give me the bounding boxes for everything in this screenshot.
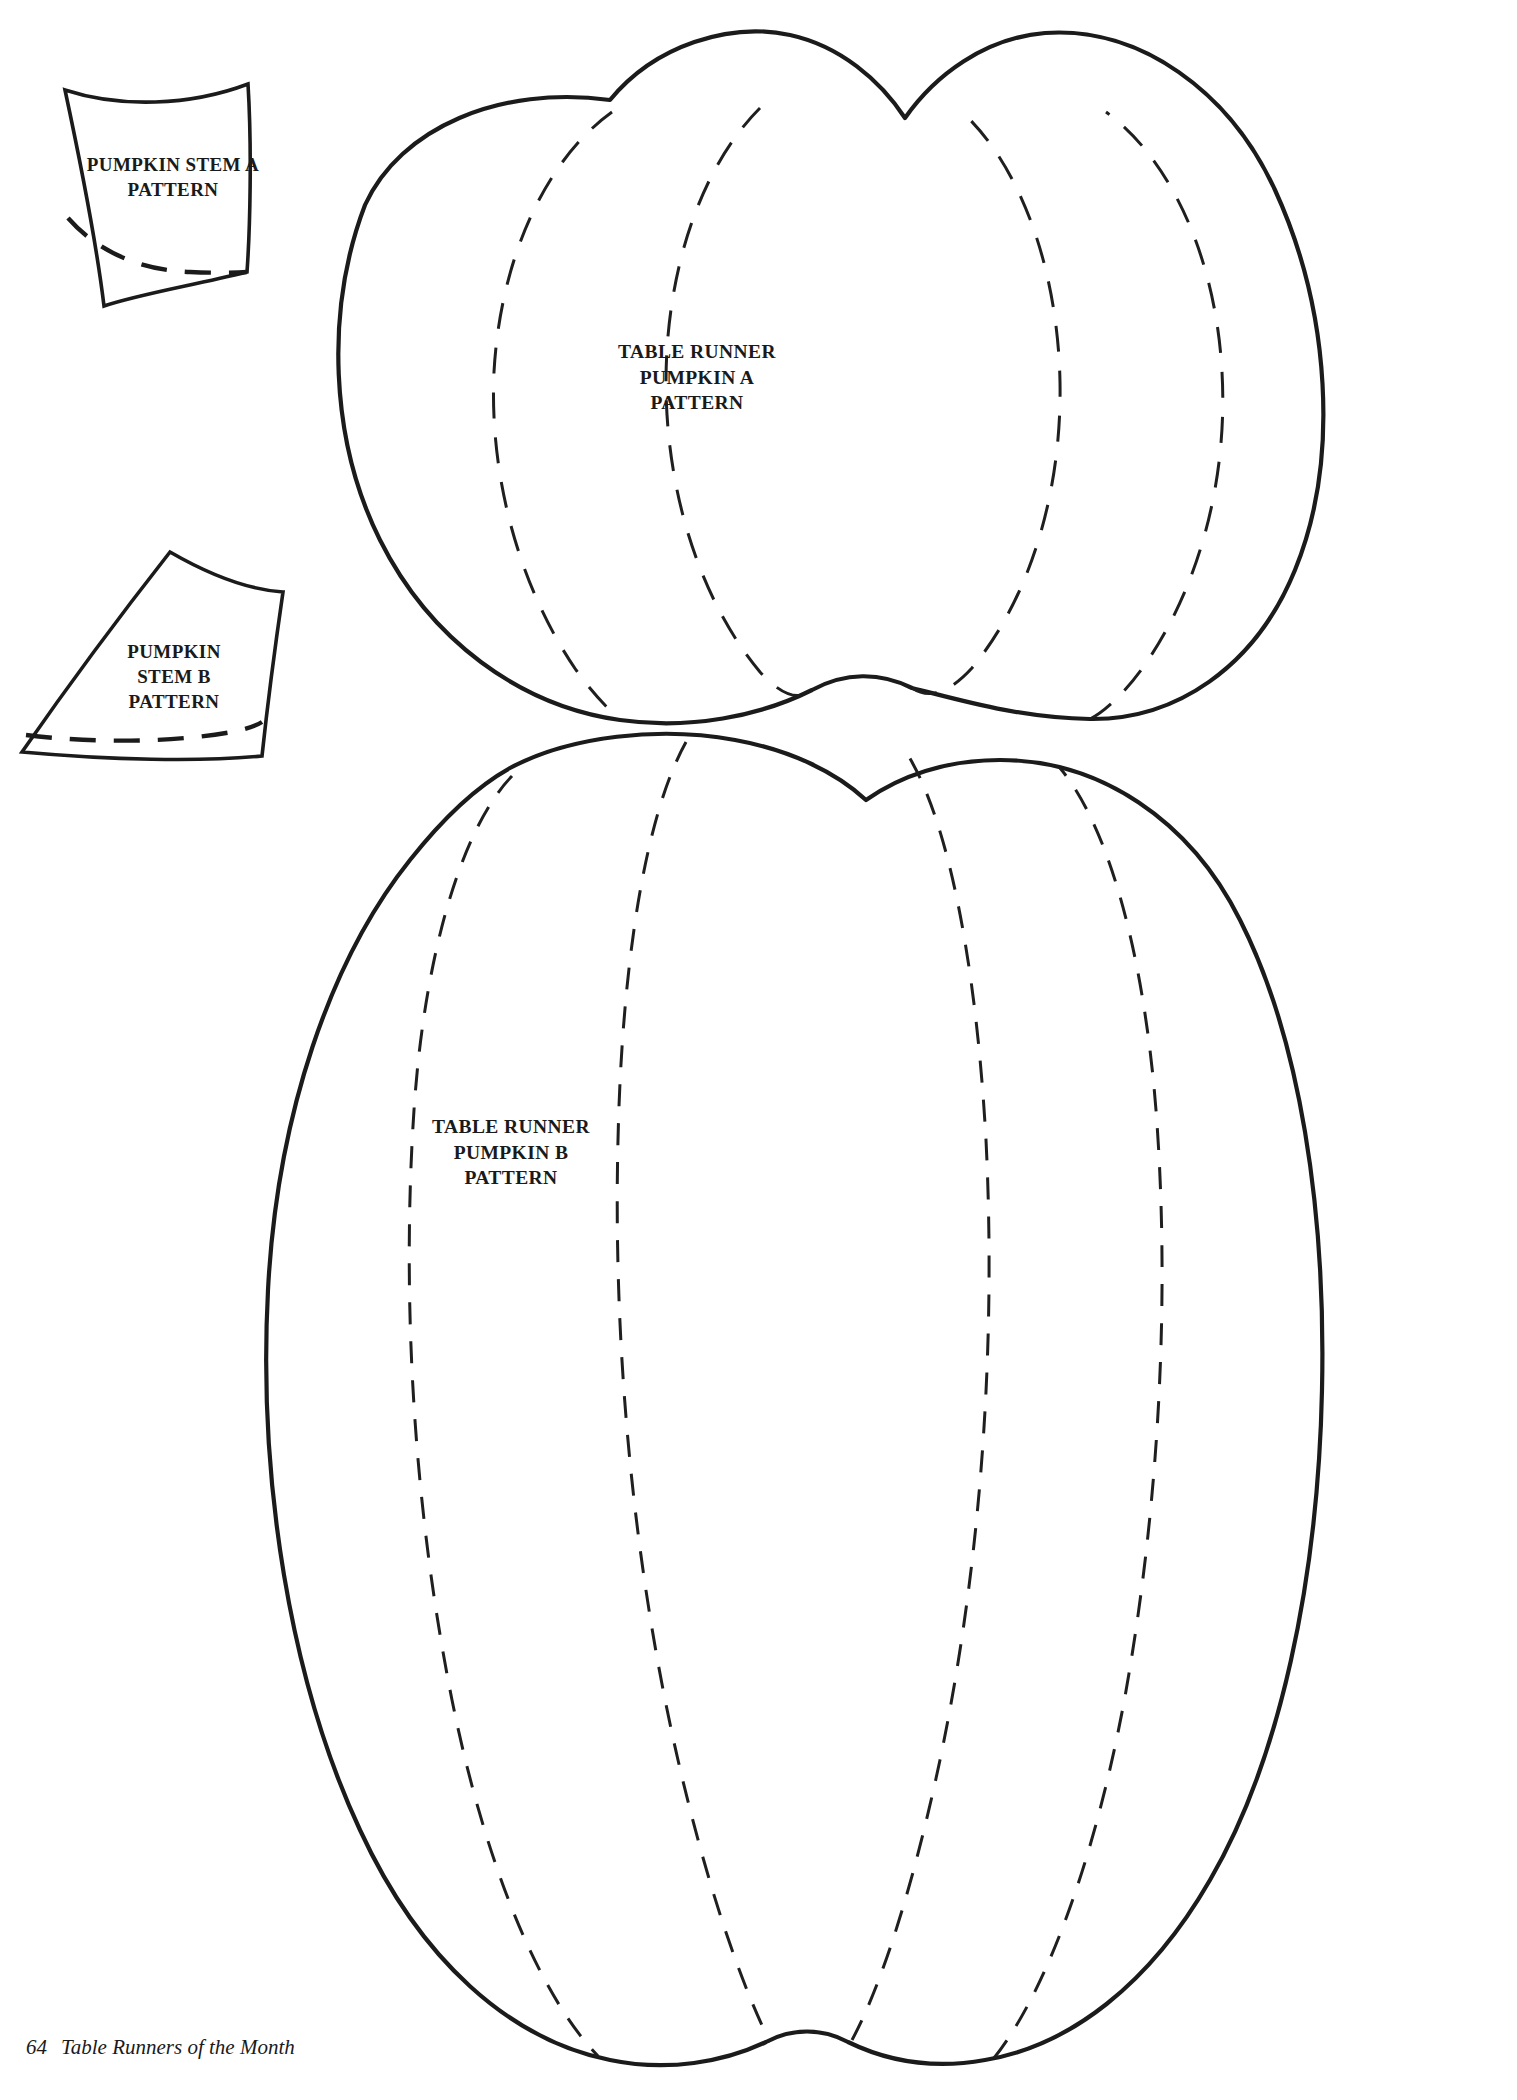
footer-page-number: 64 bbox=[26, 2035, 47, 2059]
footer-book-title: Table Runners of the Month bbox=[61, 2035, 295, 2059]
table-runner-pumpkin-a-label: TABLE RUNNER PUMPKIN A PATTERN bbox=[498, 339, 896, 416]
pattern-artwork bbox=[0, 0, 1517, 2100]
table-runner-pumpkin-b-label: TABLE RUNNER PUMPKIN B PATTERN bbox=[312, 1114, 710, 1191]
pumpkin-b-outline bbox=[266, 734, 1322, 2065]
pumpkin-stem-a-label: PUMPKIN STEM A PATTERN bbox=[48, 152, 298, 202]
pattern-page: PUMPKIN STEM A PATTERN PUMPKIN STEM B PA… bbox=[0, 0, 1517, 2100]
table-runner-pumpkin-b-piece bbox=[266, 734, 1322, 2065]
page-footer: 64Table Runners of the Month bbox=[26, 2035, 295, 2060]
pumpkin-stem-b-label: PUMPKIN STEM B PATTERN bbox=[64, 639, 284, 714]
